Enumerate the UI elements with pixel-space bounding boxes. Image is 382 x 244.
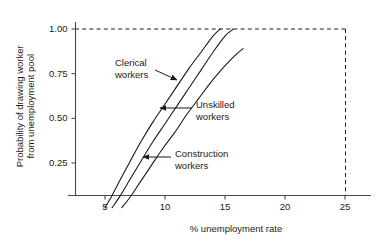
chart-figure: Probability of drawing worker from unemp… bbox=[0, 0, 382, 244]
annotation-label-construction-workers: Constructionworkers bbox=[175, 148, 228, 171]
annotation-arrow bbox=[155, 70, 177, 80]
annotation-label-clerical-workers: Clericalworkers bbox=[115, 57, 148, 80]
annotation-line1: Clerical bbox=[115, 57, 148, 69]
y-tick-label: 0.75 bbox=[38, 69, 68, 79]
x-axis-ticks bbox=[105, 196, 345, 200]
y-tick-label: 1.00 bbox=[38, 24, 68, 34]
annotation-line1: Unskilled bbox=[196, 99, 235, 111]
x-tick-label: 5 bbox=[90, 202, 120, 212]
y-tick-label: 0.25 bbox=[38, 158, 68, 168]
x-tick-label: 25 bbox=[330, 202, 360, 212]
x-tick-label: 10 bbox=[150, 202, 180, 212]
annotation-line2: workers bbox=[175, 160, 228, 172]
y-tick-label: 0.50 bbox=[38, 113, 68, 123]
y-axis-ticks bbox=[72, 29, 76, 163]
annotation-line2: workers bbox=[196, 111, 235, 123]
annotation-label-unskilled-workers: Unskilledworkers bbox=[196, 99, 235, 122]
y-axis-title: Probability of drawing worker from unemp… bbox=[14, 20, 36, 192]
x-tick-label: 15 bbox=[210, 202, 240, 212]
annotation-line2: workers bbox=[115, 69, 148, 81]
annotation-arrows bbox=[143, 70, 192, 157]
y-axis-title-line2: from unemployment pool bbox=[25, 53, 36, 158]
x-tick-label: 20 bbox=[270, 202, 300, 212]
y-axis-title-line1: Probability of drawing worker bbox=[14, 45, 25, 167]
x-axis-title: % unemployment rate bbox=[0, 223, 382, 234]
annotation-line1: Construction bbox=[175, 148, 228, 160]
